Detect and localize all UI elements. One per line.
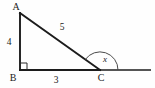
angle-label-x: x	[102, 54, 107, 64]
angle-arc-c	[85, 52, 118, 70]
side-label-bc: 3	[54, 75, 59, 85]
right-angle-marker-b	[20, 63, 27, 70]
vertex-label-a: A	[12, 1, 20, 12]
geometry-diagram: A B C 4 3 5 x	[0, 0, 155, 88]
vertex-label-c: C	[98, 72, 105, 83]
side-label-ac: 5	[60, 22, 65, 32]
geometry-figure: A B C 4 3 5 x	[0, 0, 155, 88]
vertex-label-b: B	[10, 72, 17, 83]
side-label-ab: 4	[7, 37, 12, 47]
